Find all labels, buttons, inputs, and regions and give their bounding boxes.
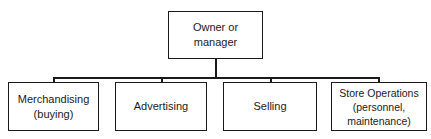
root-connector-line bbox=[215, 58, 217, 79]
root-node-owner-or-manager: Owner or manager bbox=[168, 11, 263, 59]
child-node-label: Advertising bbox=[134, 99, 188, 114]
child-node-merchandising: Merchandising (buying) bbox=[8, 82, 99, 131]
child-node-selling: Selling bbox=[223, 82, 317, 131]
child-node-label: Selling bbox=[253, 99, 286, 114]
horizontal-bus-line bbox=[53, 77, 379, 79]
child-node-advertising: Advertising bbox=[115, 82, 207, 131]
root-node-label: Owner or manager bbox=[193, 20, 238, 50]
child-node-store-operations: Store Operations (personnel, maintenance… bbox=[331, 82, 427, 131]
child-node-label: Merchandising (buying) bbox=[18, 92, 90, 122]
child-node-label: Store Operations (personnel, maintenance… bbox=[339, 86, 418, 128]
